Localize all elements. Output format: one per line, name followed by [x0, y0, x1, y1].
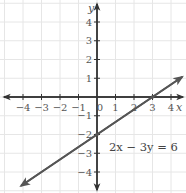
equation-line-arrow [21, 77, 182, 186]
x-tick-label: 2 [131, 102, 137, 113]
axes [4, 4, 183, 190]
y-tick-label: 3 [86, 35, 92, 46]
x-tick-label: −2 [53, 102, 68, 113]
y-axis-label: y [87, 2, 95, 15]
y-tick-label: 4 [86, 17, 92, 28]
x-tick-label: 4 [168, 102, 174, 113]
x-tick-label: 3 [149, 102, 155, 113]
coordinate-plane: −4−3−2−1012344321−1−2−3−4xy2x − 3y = 6 [0, 0, 186, 193]
data-series [21, 77, 182, 186]
y-tick-label: −4 [77, 167, 92, 178]
x-intercept-point [151, 95, 155, 99]
y-tick-label: 2 [86, 54, 92, 65]
x-tick-label: 1 [112, 102, 118, 113]
y-tick-label: −1 [77, 110, 92, 121]
x-tick-label: −4 [16, 102, 31, 113]
x-tick-label: 0 [97, 102, 103, 113]
x-tick-label: −3 [34, 102, 49, 113]
x-axis-label: x [176, 101, 183, 114]
y-tick-label: 1 [86, 73, 92, 84]
equation-label: 2x − 3y = 6 [109, 140, 178, 154]
axis-labels: −4−3−2−1012344321−1−2−3−4xy2x − 3y = 6 [16, 2, 183, 178]
y-intercept-point [95, 133, 99, 137]
y-tick-label: −3 [77, 148, 92, 159]
y-tick-label: −2 [77, 129, 92, 140]
